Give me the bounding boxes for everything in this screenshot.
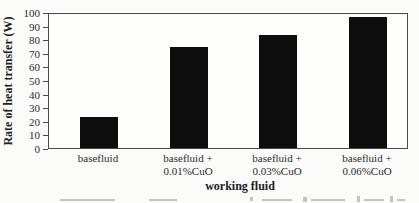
bar-chart-figure: Rate of heat transfer (W) 10090807060504… — [0, 0, 419, 203]
caption-fragment — [364, 199, 384, 201]
y-tick-mark — [43, 149, 48, 150]
category-label-4: basefluid +0.06%CuO — [317, 152, 417, 178]
plot-area — [48, 13, 408, 149]
caption-fragment — [390, 196, 393, 202]
x-axis-title: working fluid — [60, 179, 419, 194]
caption-fragment — [149, 199, 177, 201]
bar-1 — [80, 117, 118, 148]
y-tick-label: 50 — [0, 74, 40, 88]
caption-fragment — [311, 199, 345, 201]
caption-fragment — [60, 199, 115, 201]
category-label-2: basefluid +0.01%CuO — [138, 152, 238, 178]
bar-4 — [349, 17, 387, 148]
caption-fragment — [397, 199, 405, 201]
caption-fragment — [250, 197, 253, 201]
bar-2 — [170, 47, 208, 148]
bar-3 — [259, 35, 297, 148]
category-label-3: basefluid +0.03%CuO — [227, 152, 327, 178]
y-tick-label: 80 — [0, 33, 40, 47]
y-tick-label: 20 — [0, 115, 40, 129]
y-tick-label: 40 — [0, 88, 40, 102]
y-tick-label: 30 — [0, 101, 40, 115]
y-tick-label: 70 — [0, 47, 40, 61]
y-tick-label: 0 — [0, 142, 40, 156]
y-tick-label: 90 — [0, 20, 40, 34]
category-label-1: basefluid — [48, 152, 148, 165]
y-tick-label: 100 — [0, 6, 40, 20]
y-tick-label: 10 — [0, 128, 40, 142]
y-tick-label: 60 — [0, 60, 40, 74]
caption-fragment — [303, 197, 307, 202]
caption-fragment — [357, 196, 360, 202]
caption-fragment — [262, 199, 292, 201]
